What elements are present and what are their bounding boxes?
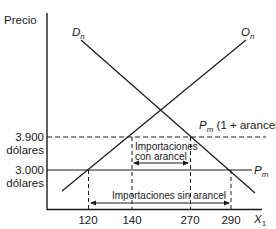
tariff-price-letter: P [199,119,207,131]
x-tick-270: 270 [175,214,205,226]
x-axis-letter: X [254,213,262,225]
world-price-letter: P [254,164,262,176]
supply-letter: O [241,26,250,38]
world-price-subscript: m [262,170,269,179]
world-price-unit: dólares [0,177,44,189]
imports-with-tariff-line2: con arancel [135,151,187,162]
world-price-value: 3.000 [0,164,44,176]
imports-without-tariff-label: Importaciones sin arancel [112,190,226,201]
world-price-label: Pm [254,164,268,181]
supply-curve-label: On [241,26,254,43]
tariff-price-suffix: (1 + arancel) [217,119,276,131]
tariff-diagram: Precio Dn On Pm (1 + arancel) Pm 3.900 d… [0,0,276,229]
x-tick-120: 120 [73,214,103,226]
x-axis-label: X1 [254,213,266,229]
demand-curve-label: Dn [72,26,85,43]
x-axis-subscript: 1 [262,219,266,228]
supply-subscript: n [250,32,254,41]
supply-curve [62,40,246,191]
x-tick-290: 290 [216,214,246,226]
y-axis-label: Precio [4,14,37,26]
tariff-price-unit: dólares [0,144,44,156]
tariff-price-label: Pm (1 + arancel) [199,119,276,136]
x-tick-140: 140 [117,214,147,226]
demand-subscript: n [80,32,84,41]
tariff-price-value: 3.900 [0,131,44,143]
